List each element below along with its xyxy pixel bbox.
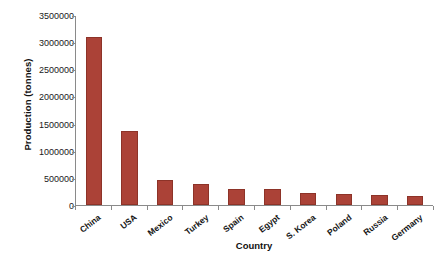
y-axis-tick-label: 0 (16, 202, 74, 211)
y-axis-tick-label: 3500000 (16, 12, 74, 21)
bar[interactable] (407, 196, 423, 205)
bar-slot (76, 16, 112, 205)
bar-slot (290, 16, 326, 205)
bar-slot (255, 16, 291, 205)
y-axis-tick-label: 1500000 (16, 120, 74, 129)
y-axis-tick-label: 500000 (16, 174, 74, 183)
x-axis-title: Country (75, 240, 433, 251)
y-axis-tick-labels: 0500000100000015000002000000250000030000… (16, 10, 74, 206)
bar[interactable] (336, 194, 352, 205)
bar[interactable] (193, 184, 209, 205)
bar[interactable] (228, 189, 244, 205)
bar-slot (183, 16, 219, 205)
bar[interactable] (300, 193, 316, 205)
bar-slot (397, 16, 433, 205)
y-axis-tick-label: 3000000 (16, 39, 74, 48)
plot-area (75, 16, 433, 206)
y-axis-tick-label: 2000000 (16, 93, 74, 102)
bar-chart-figure: Production (tonnes) 05000001000000150000… (0, 0, 440, 263)
bar[interactable] (264, 189, 280, 205)
x-axis-tick-mark (433, 206, 434, 210)
bar[interactable] (86, 37, 102, 205)
bar-series (76, 16, 433, 205)
bar-slot (112, 16, 148, 205)
bar[interactable] (157, 180, 173, 205)
bar[interactable] (121, 131, 137, 205)
bar-slot (326, 16, 362, 205)
y-axis-tick-label: 1000000 (16, 147, 74, 156)
bar-slot (147, 16, 183, 205)
y-axis-tick-label: 2500000 (16, 66, 74, 75)
x-axis-tick-labels: ChinaUSAMexicoTurkeySpainEgyptS. KoreaPo… (75, 210, 433, 244)
bar-slot (362, 16, 398, 205)
bar[interactable] (371, 195, 387, 205)
bar-slot (219, 16, 255, 205)
